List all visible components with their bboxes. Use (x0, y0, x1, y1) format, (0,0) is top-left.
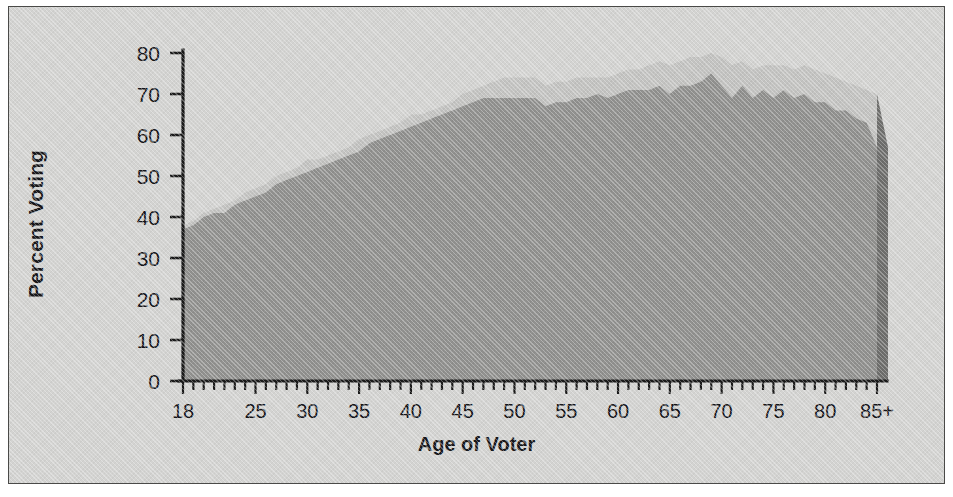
area-end-face (877, 94, 888, 381)
y-tick-label: 50 (137, 165, 160, 188)
x-tick-layer: 1825303540455055606570758085+ (172, 381, 894, 422)
y-tick-label: 20 (137, 288, 160, 311)
series-layer (183, 53, 888, 381)
x-tick-label: 70 (711, 400, 733, 422)
x-tick-label: 55 (555, 400, 577, 422)
y-tick-label: 30 (137, 247, 160, 270)
x-axis-title: Age of Voter (9, 433, 944, 456)
x-tick-label: 50 (503, 400, 525, 422)
x-tick-label: 85+ (860, 400, 894, 422)
x-tick-label: 60 (607, 400, 629, 422)
y-tick-label: 10 (137, 329, 160, 352)
chart-panel: 01020304050607080 1825303540455055606570… (8, 6, 945, 484)
y-tick-label: 80 (137, 42, 160, 65)
x-tick-label: 65 (659, 400, 681, 422)
y-tick-label: 70 (137, 83, 160, 106)
x-tick-label: 35 (348, 400, 370, 422)
x-tick-label: 80 (814, 400, 836, 422)
y-tick-layer: 01020304050607080 (137, 42, 183, 393)
x-tick-label: 45 (452, 400, 474, 422)
x-tick-label: 75 (762, 400, 784, 422)
x-tick-label: 25 (244, 400, 266, 422)
chart-screenshot: 01020304050607080 1825303540455055606570… (0, 0, 953, 497)
x-tick-label: 30 (296, 400, 318, 422)
area-chart-svg: 01020304050607080 1825303540455055606570… (9, 7, 945, 484)
y-tick-label: 40 (137, 206, 160, 229)
y-tick-label: 0 (148, 370, 160, 393)
x-tick-label: 18 (172, 400, 194, 422)
y-axis-title: Percent Voting (21, 59, 51, 389)
x-tick-label: 40 (400, 400, 422, 422)
area-texture-lower-band (183, 74, 877, 382)
y-tick-label: 60 (137, 124, 160, 147)
plot-area: 01020304050607080 1825303540455055606570… (9, 7, 945, 484)
